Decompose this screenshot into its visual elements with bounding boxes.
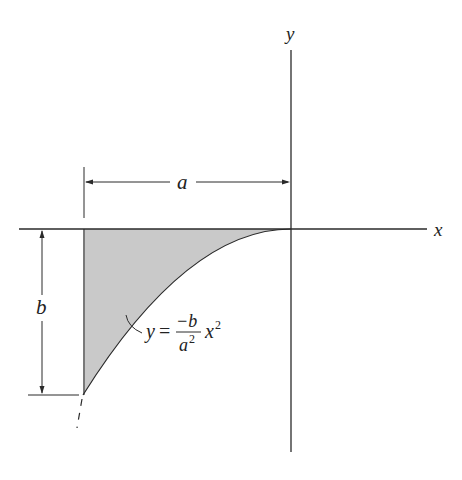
dim-b-label: b [36, 295, 47, 319]
equation-denominator-base: a [179, 335, 188, 355]
parabola-dashed-extension [77, 399, 82, 428]
equation-numerator: −b [176, 311, 197, 331]
equation-var: x [204, 320, 214, 342]
dim-a-label: a [177, 170, 188, 194]
diagram-canvas: x y a b y = −b a 2 x 2 [0, 0, 462, 480]
equation: y = −b a 2 x 2 [144, 311, 221, 355]
y-axis-label: y [284, 23, 295, 44]
dim-a-arrow-right-icon [282, 180, 290, 185]
dim-a-arrow-left-icon [85, 180, 93, 185]
dim-b-arrow-down-icon [40, 386, 45, 394]
diagram: x y a b y = −b a 2 x 2 [0, 0, 462, 480]
equation-var-exp: 2 [215, 318, 221, 332]
x-axis-label: x [433, 219, 443, 240]
dim-b-arrow-up-icon [40, 230, 45, 238]
equation-equals: = [159, 320, 170, 342]
equation-denominator-exp: 2 [189, 332, 195, 346]
equation-lhs: y [144, 320, 155, 343]
